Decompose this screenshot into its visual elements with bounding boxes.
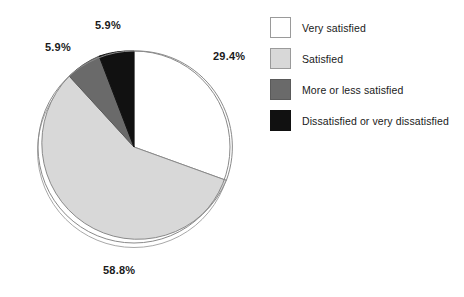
pie-label-dissatisfied: 5.9%: [45, 41, 71, 53]
pie-label-satisfied: 58.8%: [103, 264, 135, 276]
legend-item-more-or-less-satisfied[interactable]: More or less satisfied: [270, 74, 464, 105]
legend-swatch-dissatisfied: [270, 110, 291, 131]
pie-chart-figure: 29.4% 58.8% 5.9% 5.9% Very satisfied Sat…: [0, 0, 464, 297]
legend-swatch-satisfied: [270, 48, 291, 69]
legend-swatch-very-satisfied: [270, 17, 291, 38]
pie-chart-plot-area: 29.4% 58.8% 5.9% 5.9%: [0, 0, 270, 297]
pie-label-very-satisfied: 29.4%: [213, 50, 245, 62]
legend-label-satisfied: Satisfied: [302, 53, 343, 65]
legend-label-very-satisfied: Very satisfied: [302, 22, 366, 34]
legend-swatch-more-or-less-satisfied: [270, 79, 291, 100]
legend-label-more-or-less-satisfied: More or less satisfied: [302, 84, 403, 96]
legend-item-very-satisfied[interactable]: Very satisfied: [270, 12, 464, 43]
legend-item-satisfied[interactable]: Satisfied: [270, 43, 464, 74]
legend-label-dissatisfied: Dissatisfied or very dissatisfied: [302, 115, 449, 127]
legend-item-dissatisfied[interactable]: Dissatisfied or very dissatisfied: [270, 105, 464, 136]
pie-chart-svg: [0, 0, 270, 297]
pie-label-more-or-less-satisfied: 5.9%: [95, 19, 121, 31]
chart-legend: Very satisfied Satisfied More or less sa…: [270, 12, 464, 136]
